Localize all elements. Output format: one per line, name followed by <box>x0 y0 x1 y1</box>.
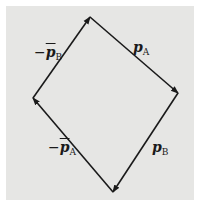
minus-sign: − <box>34 44 46 60</box>
vector-symbol: p <box>46 44 56 60</box>
subscript: A <box>143 47 150 57</box>
label-neg-pA-bar: −pA <box>48 139 76 157</box>
label-pB: pB <box>152 139 168 157</box>
minus-sign: − <box>48 139 60 155</box>
subscript: A <box>70 147 77 157</box>
vector-symbol: p <box>133 39 143 55</box>
vector-symbol: p <box>152 139 162 155</box>
subscript: B <box>162 147 169 157</box>
vector-symbol: p <box>60 139 70 155</box>
subscript: B <box>56 52 63 62</box>
vector-quadrilateral <box>0 0 201 210</box>
label-neg-pB-bar: −pB <box>34 44 62 62</box>
label-pA: pA <box>133 39 149 57</box>
